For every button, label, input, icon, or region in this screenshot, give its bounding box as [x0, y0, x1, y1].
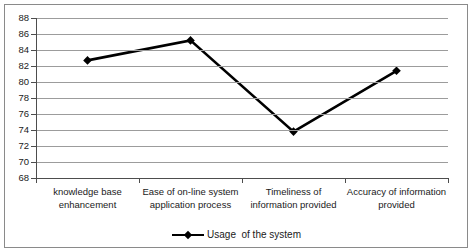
y-axis-line [36, 18, 37, 179]
gridline [36, 98, 448, 99]
legend-entry-usage-of-the-system: Usage of the system [171, 229, 301, 241]
y-axis-tick-label: 76 [3, 109, 29, 119]
y-axis-tick [31, 114, 36, 115]
y-axis-tick [31, 50, 36, 51]
y-axis-tick-label: 88 [3, 13, 29, 23]
x-axis-category-label-line: knowledge base [36, 186, 139, 199]
y-axis-tick [31, 130, 36, 131]
x-axis-category-label-line: enhancement [36, 199, 139, 212]
y-axis-tick [31, 66, 36, 67]
gridline [36, 18, 448, 19]
x-axis-category-label: knowledge baseenhancement [36, 186, 139, 211]
x-axis-category-label-line: application process [139, 199, 242, 212]
y-axis-tick-label: 78 [3, 93, 29, 103]
x-axis-tick [139, 178, 140, 183]
x-axis-category-label-line: provided [345, 199, 448, 212]
x-axis-tick [36, 178, 37, 183]
y-axis-tick-label: 70 [3, 157, 29, 167]
y-axis-tick [31, 162, 36, 163]
line-chart-figure: 8886848280787674727068 knowledge baseenh… [0, 0, 472, 252]
y-axis-tick-label: 86 [3, 29, 29, 39]
y-axis-tick-label: 72 [3, 141, 29, 151]
x-axis-category-label-line: information provided [242, 199, 345, 212]
chart-legend: Usage of the system [0, 229, 472, 241]
y-axis-tick-label: 80 [3, 77, 29, 87]
gridline [36, 66, 448, 67]
gridline [36, 82, 448, 83]
x-axis-category-label: Ease of on-line systemapplication proces… [139, 186, 242, 211]
x-axis-category-labels: knowledge baseenhancementEase of on-line… [36, 186, 448, 218]
data-point-marker [83, 56, 92, 65]
y-axis-tick-label: 68 [3, 173, 29, 183]
y-axis-tick-label: 74 [3, 125, 29, 135]
y-axis-tick [31, 146, 36, 147]
x-axis-tick [448, 178, 449, 183]
y-axis-tick-label: 84 [3, 45, 29, 55]
x-axis-tick [345, 178, 346, 183]
gridline [36, 162, 448, 163]
y-axis-tick [31, 34, 36, 35]
gridline [36, 50, 448, 51]
legend-line-marker-icon [171, 229, 205, 241]
y-axis-label-group: 8886848280787674727068 [0, 0, 29, 252]
x-axis-category-label: Accuracy of informationprovided [345, 186, 448, 211]
legend-label: Usage of the system [205, 229, 301, 241]
y-axis-tick [31, 82, 36, 83]
y-axis-tick [31, 98, 36, 99]
x-axis-category-label: Timeliness ofinformation provided [242, 186, 345, 211]
gridline [36, 114, 448, 115]
y-axis-tick-label: 82 [3, 61, 29, 71]
x-axis-category-label-line: Accuracy of information [345, 186, 448, 199]
x-axis-category-label-line: Ease of on-line system [139, 186, 242, 199]
x-axis-tick [242, 178, 243, 183]
x-axis-category-label-line: Timeliness of [242, 186, 345, 199]
gridline [36, 146, 448, 147]
gridline [36, 130, 448, 131]
plot-area [36, 18, 448, 178]
series-line [88, 40, 397, 131]
gridline [36, 34, 448, 35]
y-axis-tick [31, 18, 36, 19]
